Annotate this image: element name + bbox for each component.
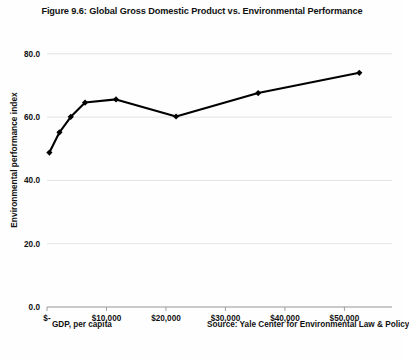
y-axis-tick-label: 20.0 (24, 240, 40, 249)
x-axis-caption: GDP, per capita (52, 320, 112, 329)
y-axis-tick-label: 60.0 (24, 113, 40, 122)
data-point-marker (113, 96, 119, 102)
data-series-line (46, 70, 362, 156)
source-note: Source: Yale Center for Environmental La… (207, 320, 409, 329)
data-point-marker (173, 113, 179, 119)
gridlines-group (47, 54, 392, 307)
data-point-marker (255, 90, 261, 96)
x-axis-tick-label: $- (43, 314, 51, 323)
y-axis-tick-label: 40.0 (24, 176, 40, 185)
series-line (49, 73, 359, 153)
y-axis-tick-labels-group: 0.020.040.060.080.0 (24, 50, 40, 312)
y-axis-tick-label: 80.0 (24, 50, 40, 59)
y-axis-tick-label: 0.0 (29, 303, 41, 312)
y-axis-title: Environmental performance index (9, 92, 19, 228)
data-point-marker (356, 70, 362, 76)
x-axis-ticks-group (47, 307, 344, 311)
x-axis-tick-label: $20,000 (151, 314, 181, 323)
